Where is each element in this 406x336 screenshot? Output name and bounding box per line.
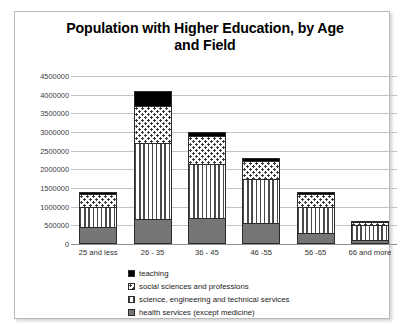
legend-item[interactable]: science, engineering and technical servi… (128, 293, 289, 305)
bar-segment (242, 161, 280, 179)
bar-segment (297, 192, 335, 194)
legend-item-label: teaching (139, 269, 168, 278)
x-axis-tick-label: 66 and more (343, 248, 397, 257)
bar-stack (79, 192, 117, 244)
y-axis-tick-label: 1500000 (17, 184, 69, 193)
bar-segment (351, 222, 389, 224)
y-axis-tick-label: 2500000 (17, 147, 69, 156)
bar-series-area (71, 76, 397, 244)
bar-segment (134, 219, 172, 244)
bar-segment (188, 164, 226, 218)
legend-item-label: science, engineering and technical servi… (139, 295, 289, 304)
bar-segment (351, 221, 389, 222)
bar-segment (242, 223, 280, 244)
legend-swatch-icon (128, 283, 135, 290)
bar-segment (188, 218, 226, 244)
bar-segment (242, 158, 280, 161)
y-axis-tick-label: 500000 (17, 221, 69, 230)
legend-swatch-icon (128, 309, 135, 316)
bar-stack (188, 132, 226, 244)
legend-item[interactable]: teaching (128, 267, 289, 279)
x-axis-line (71, 244, 397, 245)
bar-segment (79, 194, 117, 206)
bar-segment (79, 207, 117, 228)
y-axis-tick-label: 3000000 (17, 128, 69, 137)
bar-segment (134, 91, 172, 106)
bar-segment (188, 132, 226, 136)
chart-screenshot: Population with Higher Education, by Age… (0, 0, 406, 336)
y-axis-tick-label: 4500000 (17, 72, 69, 81)
bar-stack (134, 91, 172, 244)
legend-swatch-icon (128, 270, 135, 277)
x-axis-tick-label: 26 - 35 (125, 248, 179, 257)
y-axis-tick-label: 3500000 (17, 109, 69, 118)
y-axis-tick-label: 2000000 (17, 165, 69, 174)
chart-title: Population with Higher Education, by Age… (55, 20, 355, 54)
bar-segment (351, 225, 389, 240)
y-axis-tick-label: 4000000 (17, 91, 69, 100)
y-axis-tick-label: 0 (17, 240, 69, 249)
legend-item-label: health services (except medicine) (139, 308, 255, 317)
legend-swatch-icon (128, 296, 135, 303)
bar-segment (134, 143, 172, 219)
x-axis-tick-label: 25 and less (71, 248, 125, 257)
legend-item-label: social sciences and professions (139, 282, 249, 291)
chart-legend: teachingsocial sciences and professionss… (128, 267, 289, 319)
bar-stack (351, 221, 389, 244)
x-axis-tick-label: 56 -65 (288, 248, 342, 257)
bar-segment (79, 192, 117, 195)
bar-segment (297, 207, 335, 233)
legend-item[interactable]: social sciences and professions (128, 280, 289, 292)
bar-segment (297, 194, 335, 207)
chart-container: Population with Higher Education, by Age… (14, 11, 390, 319)
bar-segment (134, 106, 172, 143)
legend-item[interactable]: health services (except medicine) (128, 306, 289, 318)
y-axis-tick-label: 1000000 (17, 203, 69, 212)
bar-segment (188, 136, 226, 164)
bar-stack (242, 158, 280, 244)
x-axis-tick-label: 36 - 45 (180, 248, 234, 257)
y-axis: 4500000400000035000003000000250000020000… (15, 76, 69, 244)
bar-segment (242, 179, 280, 224)
x-axis-tick-label: 46 -55 (234, 248, 288, 257)
bar-segment (297, 233, 335, 244)
bar-segment (79, 227, 117, 244)
bar-stack (297, 192, 335, 244)
